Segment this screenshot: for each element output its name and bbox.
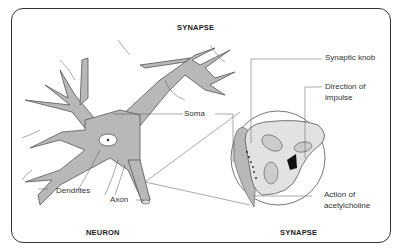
caption-neuron: NEURON — [86, 228, 120, 237]
label-axon: Axon — [110, 195, 128, 205]
neuron-icon — [25, 48, 235, 205]
label-action-line1: Action of — [324, 190, 355, 200]
neuron-synapse-illustration — [0, 0, 400, 249]
label-direction-line1: Direction of — [325, 82, 365, 92]
label-synaptic-knob: Synaptic knob — [325, 53, 375, 63]
label-action-line2: acetylcholine — [324, 201, 370, 211]
caption-synapse: SYNAPSE — [280, 228, 317, 237]
diagram-title: SYNAPSE — [177, 23, 214, 32]
label-direction-line2: impulse — [325, 93, 353, 103]
label-dendrites: Dendrites — [56, 186, 90, 196]
label-soma: Soma — [184, 109, 205, 119]
